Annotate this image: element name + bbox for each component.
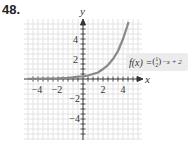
function-graph: −4 −2 2 4 4 2 −2 −4 x y bbox=[0, 0, 191, 150]
svg-text:−2: −2 bbox=[69, 93, 80, 104]
equation-exponent: −x + 2 bbox=[162, 58, 182, 66]
svg-text:x: x bbox=[144, 73, 150, 85]
svg-text:y: y bbox=[79, 5, 85, 17]
svg-text:2: 2 bbox=[73, 54, 78, 65]
svg-text:−4: −4 bbox=[32, 84, 43, 95]
svg-text:−4: −4 bbox=[69, 113, 80, 124]
svg-text:−2: −2 bbox=[52, 84, 63, 95]
function-equation-label: f(x) = (12) −x + 2 bbox=[126, 53, 188, 71]
equation-base: (12) bbox=[152, 56, 161, 68]
equation-lhs: f(x) = bbox=[129, 57, 152, 68]
svg-text:4: 4 bbox=[73, 34, 78, 45]
svg-text:4: 4 bbox=[121, 84, 126, 95]
svg-text:2: 2 bbox=[101, 84, 106, 95]
